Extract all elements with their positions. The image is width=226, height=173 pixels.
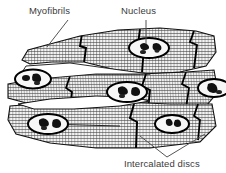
nucleus-left-upper (15, 70, 51, 89)
label-myofibrils: Myofibrils (29, 6, 70, 16)
nucleus-bottom-right (155, 115, 189, 133)
nucleus-center (107, 82, 147, 102)
label-intercalated-discs: Intercalated discs (124, 159, 200, 169)
nucleus-top-right (129, 38, 169, 58)
cardiac-muscle-diagram (0, 0, 226, 173)
nucleus-bottom-left (28, 114, 68, 134)
label-nucleus: Nucleus (121, 6, 156, 16)
nucleus-right-edge (198, 79, 226, 97)
figure-canvas: Myofibrils Nucleus Intercalated discs (0, 0, 226, 173)
